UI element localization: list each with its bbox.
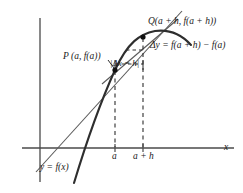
figure-canvas [0, 0, 243, 193]
delta-y-label: Δy = f(a + h) − f(a) [150, 41, 225, 51]
curve-label: y = f(x) [40, 163, 69, 173]
delta-x-label: |Δx = h| [110, 59, 139, 68]
point-marker-q [140, 34, 145, 39]
point-p-label: P (a, f(a)) [63, 52, 101, 62]
x-tick-label-a-plus-h: a + h [133, 152, 154, 162]
x-axis-label: x [224, 143, 228, 153]
x-tick-label-a: a [112, 152, 117, 162]
point-q-label: Q(a + h, f(a + h)) [148, 17, 216, 27]
point-marker-p [112, 67, 117, 72]
calculus-difference-quotient-figure: Q(a + h, f(a + h)) Δy = f(a + h) − f(a) … [0, 0, 243, 193]
